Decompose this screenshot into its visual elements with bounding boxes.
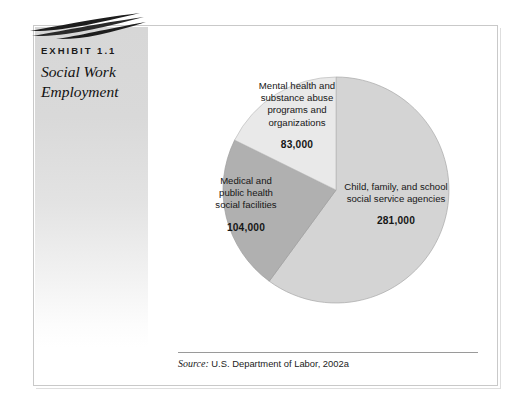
pie-label-child-family-school: Child, family, and school social service… bbox=[320, 181, 472, 226]
pie-label-mental-health-line-1: Mental health and bbox=[218, 80, 376, 92]
pie-label-medical-line-2: public health bbox=[185, 187, 307, 199]
source-citation: U.S. Department of Labor, 2002a bbox=[211, 358, 349, 369]
swoosh-ornament-icon bbox=[28, 12, 148, 40]
source-keyword: Source: bbox=[178, 358, 209, 369]
pie-value-child-family-school: 281,000 bbox=[320, 215, 472, 226]
pie-value-mental-health: 83,000 bbox=[218, 139, 376, 150]
pie-label-child-line-2: social service agencies bbox=[320, 193, 472, 205]
page-title: Social Work Employment bbox=[41, 62, 145, 102]
pie-label-mental-health: Mental health and substance abuse progra… bbox=[218, 80, 376, 150]
pie-label-medical: Medical and public health social facilit… bbox=[185, 175, 307, 233]
exhibit-title-line-2: Employment bbox=[41, 83, 118, 100]
pie-label-medical-line-1: Medical and bbox=[185, 175, 307, 187]
pie-value-medical: 104,000 bbox=[185, 222, 307, 233]
pie-label-child-line-1: Child, family, and school bbox=[320, 181, 472, 193]
source-divider bbox=[178, 352, 478, 353]
exhibit-page: EXHIBIT 1.1 Social Work Employment Menta… bbox=[0, 0, 522, 403]
exhibit-number: EXHIBIT 1.1 bbox=[41, 45, 116, 56]
pie-label-medical-line-3: social facilities bbox=[185, 199, 307, 211]
exhibit-title-line-1: Social Work bbox=[41, 63, 116, 80]
pie-label-mental-health-line-4: organizations bbox=[218, 117, 376, 129]
source-note: Source: U.S. Department of Labor, 2002a bbox=[178, 358, 349, 369]
pie-chart: Mental health and substance abuse progra… bbox=[210, 38, 462, 338]
pie-label-mental-health-line-2: substance abuse bbox=[218, 92, 376, 104]
pie-label-mental-health-line-3: programs and bbox=[218, 104, 376, 116]
